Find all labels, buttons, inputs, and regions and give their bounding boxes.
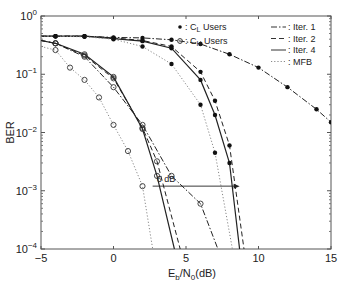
star-marker xyxy=(198,78,202,82)
x-tick-label: 10 xyxy=(252,252,264,264)
star-marker xyxy=(198,103,202,107)
legend-marker-label: : CL Users xyxy=(185,22,227,33)
y-tick-label: 10−3 xyxy=(16,183,38,197)
star-marker xyxy=(140,44,144,48)
circle-marker xyxy=(111,122,116,127)
star-marker xyxy=(169,46,173,50)
series-line xyxy=(41,36,244,249)
x-axis-label: Eb/N0(dB) xyxy=(168,267,216,282)
circle-marker xyxy=(96,95,101,100)
y-tick-label: 100 xyxy=(20,8,37,22)
star-marker xyxy=(256,65,260,69)
legend: : CL Users: CH Users: Iter. 1: Iter. 2: … xyxy=(178,22,316,67)
y-tick-label: 10−1 xyxy=(16,66,38,80)
legend-line-label: : Iter. 1 xyxy=(288,22,316,32)
ber-chart: −505101510010−110−210−310−4BEREb/N0(dB)6… xyxy=(0,0,340,285)
x-tick-label: −5 xyxy=(35,252,48,264)
star-marker xyxy=(169,38,173,42)
star-marker xyxy=(227,143,231,147)
series-line xyxy=(41,41,174,250)
star-marker xyxy=(140,39,144,43)
star-marker xyxy=(227,161,231,165)
series-line xyxy=(41,41,218,250)
legend-line-label: : Iter. 2 xyxy=(288,34,316,44)
x-tick-label: 0 xyxy=(110,252,116,264)
star-marker xyxy=(285,85,289,89)
series-line xyxy=(41,41,180,250)
chart-svg: −505101510010−110−210−310−4BEREb/N0(dB)6… xyxy=(0,0,340,285)
circle-marker xyxy=(67,65,72,70)
annotation-label: 6 dB xyxy=(157,174,176,184)
star-marker xyxy=(329,120,333,124)
y-axis-label: BER xyxy=(4,121,16,144)
series-line xyxy=(41,36,232,249)
star-marker xyxy=(227,52,231,56)
star-marker xyxy=(213,151,217,155)
star-marker xyxy=(213,113,217,117)
circle-marker xyxy=(125,148,130,153)
star-marker xyxy=(111,37,115,41)
star-marker xyxy=(82,35,86,39)
legend-line-label: : MFB xyxy=(288,57,312,67)
star-marker xyxy=(198,70,202,74)
arrow-head-icon xyxy=(234,184,240,189)
y-tick-label: 10−2 xyxy=(16,125,38,139)
star-marker xyxy=(169,62,173,66)
star-marker xyxy=(53,34,57,38)
x-tick-label: 5 xyxy=(183,252,189,264)
legend-marker-label: : CH Users xyxy=(185,36,228,47)
star-marker xyxy=(213,99,217,103)
x-tick-label: 15 xyxy=(325,252,337,264)
series-line xyxy=(41,47,153,250)
circle-marker xyxy=(82,77,87,82)
legend-line-label: : Iter. 4 xyxy=(288,45,316,55)
star-marker xyxy=(314,107,318,111)
